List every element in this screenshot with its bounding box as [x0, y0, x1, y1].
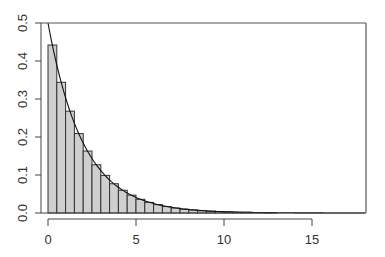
histogram-bar [48, 45, 57, 213]
histogram-bar [66, 111, 75, 213]
histogram-bar [101, 175, 110, 213]
y-tick-label: 0.1 [15, 166, 30, 184]
x-tick-label: 10 [217, 232, 231, 247]
x-tick-label: 0 [44, 232, 51, 247]
histogram-bar [74, 134, 83, 213]
histogram-bar [145, 202, 154, 213]
histogram-bar [118, 190, 127, 213]
histogram-bar [110, 184, 119, 213]
histogram-chart: 051015 0.00.10.20.30.40.5 [0, 0, 385, 257]
histogram-bar [136, 199, 145, 213]
x-tick-label: 15 [305, 232, 319, 247]
histogram-bar [57, 82, 66, 213]
histogram-bar [83, 151, 92, 213]
x-tick-label: 5 [132, 232, 139, 247]
x-axis: 051015 [41, 213, 366, 247]
y-tick-label: 0.3 [15, 90, 30, 108]
y-tick-label: 0.5 [15, 14, 30, 32]
histogram-bars [48, 45, 277, 213]
histogram-bar [127, 195, 136, 213]
y-axis: 0.00.10.20.30.40.5 [15, 14, 41, 222]
y-tick-label: 0.4 [15, 52, 30, 70]
y-tick-label: 0.2 [15, 128, 30, 146]
y-tick-label: 0.0 [15, 204, 30, 222]
histogram-bar [92, 165, 101, 213]
